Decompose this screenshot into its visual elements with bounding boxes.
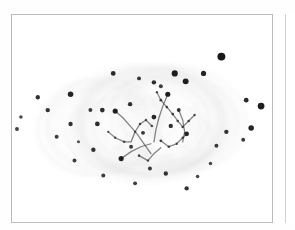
filament-knots-13 xyxy=(168,145,171,148)
filament-knots-6 xyxy=(187,120,190,123)
point-sources-10 xyxy=(36,95,40,99)
filament-knots-15 xyxy=(181,137,183,139)
filament-knots-20 xyxy=(147,159,149,161)
point-sources-36 xyxy=(184,186,188,190)
point-sources-41 xyxy=(129,145,133,149)
point-sources-6 xyxy=(152,80,156,84)
point-sources-4 xyxy=(111,71,116,76)
point-sources-5 xyxy=(137,76,141,80)
filament-knots-5 xyxy=(156,91,158,93)
point-sources-3 xyxy=(183,78,189,84)
point-sources-26 xyxy=(224,130,228,134)
point-sources-38 xyxy=(133,181,137,185)
point-sources-18 xyxy=(15,127,19,131)
filament-knots-1 xyxy=(166,106,169,109)
figure-page xyxy=(0,0,295,230)
adjacent-panel-edge xyxy=(285,14,295,223)
point-sources-16 xyxy=(68,122,72,126)
point-sources-13 xyxy=(88,108,92,112)
point-sources-24 xyxy=(141,131,145,135)
point-sources-17 xyxy=(100,108,105,113)
point-sources-23 xyxy=(152,115,157,120)
point-sources-39 xyxy=(209,162,213,166)
point-sources-28 xyxy=(241,138,245,142)
point-sources-2 xyxy=(201,71,206,76)
point-sources-8 xyxy=(165,92,170,97)
point-sources-11 xyxy=(244,98,249,103)
point-sources-29 xyxy=(214,144,218,148)
point-sources-30 xyxy=(91,148,95,152)
point-sources-0 xyxy=(217,53,225,61)
filament-knots-10 xyxy=(139,123,142,126)
filament-knots-7 xyxy=(193,114,195,116)
plate-frame xyxy=(11,14,273,223)
filament-knots-11 xyxy=(134,131,136,133)
filament-knots-19 xyxy=(138,154,141,157)
filament-knots-14 xyxy=(176,143,178,145)
point-sources-27 xyxy=(248,125,254,131)
point-sources-14 xyxy=(46,108,50,112)
point-sources-32 xyxy=(119,156,124,161)
point-sources-15 xyxy=(19,115,23,119)
point-sources-37 xyxy=(196,175,200,179)
point-sources-40 xyxy=(77,140,80,143)
point-sources-19 xyxy=(55,135,59,139)
point-sources-12 xyxy=(258,103,265,110)
point-sources-20 xyxy=(95,122,100,127)
filament-knots-2 xyxy=(171,113,174,116)
filament-knots-4 xyxy=(181,126,184,129)
filament-knots-17 xyxy=(114,137,116,139)
point-sources-42 xyxy=(169,124,173,128)
point-sources-35 xyxy=(101,173,105,177)
filament-knots-12 xyxy=(159,139,162,142)
filament-knots-0 xyxy=(159,99,162,102)
nebula-core xyxy=(64,58,237,186)
filament-knots-18 xyxy=(107,131,109,133)
point-sources-9 xyxy=(68,91,74,97)
point-sources-1 xyxy=(172,70,178,76)
filament-knots-3 xyxy=(176,120,179,123)
sky-image xyxy=(12,15,272,222)
point-sources-22 xyxy=(128,102,132,106)
caption-strip xyxy=(11,0,273,13)
filament-knots-16 xyxy=(123,140,126,143)
point-sources-7 xyxy=(159,84,163,88)
filament-knots-8 xyxy=(151,125,154,128)
point-sources-33 xyxy=(148,167,152,171)
point-sources-31 xyxy=(73,159,77,163)
point-sources-21 xyxy=(113,108,118,113)
point-sources-43 xyxy=(177,108,181,112)
point-sources-25 xyxy=(184,131,189,136)
filament-knots-9 xyxy=(145,119,147,121)
point-sources-34 xyxy=(164,171,168,175)
